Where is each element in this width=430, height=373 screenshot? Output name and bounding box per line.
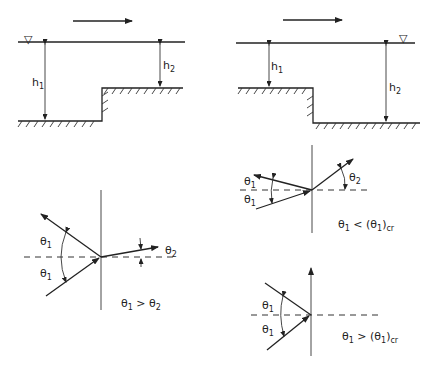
incident-ray — [256, 191, 310, 209]
theta1-lower-label: θ1 — [244, 193, 256, 208]
condition-label: θ1 < (θ1)cr — [338, 218, 395, 233]
theta1-upper-label: θ1 — [40, 235, 52, 250]
incident-ray — [46, 258, 99, 296]
channel-bed — [18, 88, 183, 121]
h2-label: h2 — [389, 81, 401, 96]
water-surface-symbol: ▽ — [24, 33, 33, 46]
theta1-lower-label: θ1 — [262, 323, 274, 338]
theta1-upper-label: θ1 — [244, 175, 256, 190]
theta1-lower-label: θ1 — [40, 267, 52, 282]
theta1-arc — [281, 296, 284, 336]
refraction-panel: θ1 θ1 θ2 θ1 > θ2 — [24, 190, 177, 312]
step-down-panel: ▽ h1 h2 — [236, 20, 420, 129]
reflected-ray — [41, 214, 101, 257]
theta2-label: θ2 — [165, 244, 177, 259]
h2-label: h2 — [163, 59, 175, 74]
h1-label: h1 — [271, 60, 283, 75]
theta1-upper-label: θ1 — [262, 299, 274, 314]
supercritical-panel: θ1 θ1 θ1 > (θ1)cr — [251, 268, 399, 356]
theta2-arc — [341, 168, 345, 189]
transmitted-ray — [101, 247, 158, 257]
subcritical-panel: θ1 θ1 θ2 θ1 < (θ1)cr — [240, 145, 395, 233]
theta1-arc — [271, 178, 273, 203]
step-up-panel: ▽ h1 h2 — [18, 21, 185, 127]
condition-label: θ1 > θ2 — [121, 297, 161, 312]
theta2-label: θ2 — [349, 171, 361, 186]
transmitted-ray — [312, 159, 353, 190]
water-surface-symbol: ▽ — [399, 32, 408, 45]
condition-label: θ1 > (θ1)cr — [342, 330, 399, 345]
reflected-ray — [254, 175, 312, 190]
h1-label: h1 — [32, 76, 44, 91]
